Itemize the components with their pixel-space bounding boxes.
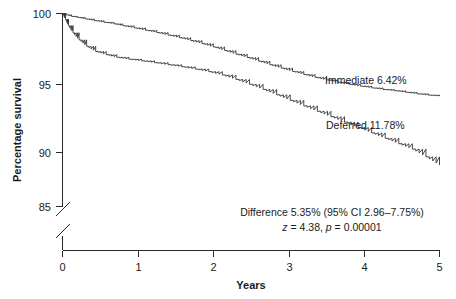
x-tick-label-0: 0 xyxy=(59,261,65,273)
z-value: = 4.38, xyxy=(288,221,326,233)
survival-chart-figure: 100 95 90 85 0 1 2 3 4 5 Years Percentag… xyxy=(0,0,456,299)
x-tick-label-2: 2 xyxy=(210,261,216,273)
statistics-annotation: z = 4.38, p = 0.00001 xyxy=(281,221,381,233)
p-value: = 0.00001 xyxy=(332,221,382,233)
x-axis-title: Years xyxy=(236,279,265,291)
kaplan-meier-plot: 100 95 90 85 0 1 2 3 4 5 Years Percentag… xyxy=(0,0,456,299)
x-tick-label-1: 1 xyxy=(135,261,141,273)
x-tick-label-3: 3 xyxy=(286,261,292,273)
series-label-immediate: Immediate 6.42% xyxy=(325,74,407,86)
y-tick-label-95: 95 xyxy=(39,79,51,91)
axis-break-mark-lower xyxy=(56,224,70,238)
y-tick-label-100: 100 xyxy=(33,8,51,20)
y-axis-title: Percentage survival xyxy=(11,78,23,182)
y-tick-label-90: 90 xyxy=(39,147,51,159)
y-tick-label-85: 85 xyxy=(39,201,51,213)
series-label-deferred: Deferred 11.78% xyxy=(326,119,405,131)
x-tick-label-5: 5 xyxy=(436,261,442,273)
difference-annotation: Difference 5.35% (95% CI 2.96–7.75%) xyxy=(240,206,424,218)
x-tick-label-4: 4 xyxy=(361,261,367,273)
